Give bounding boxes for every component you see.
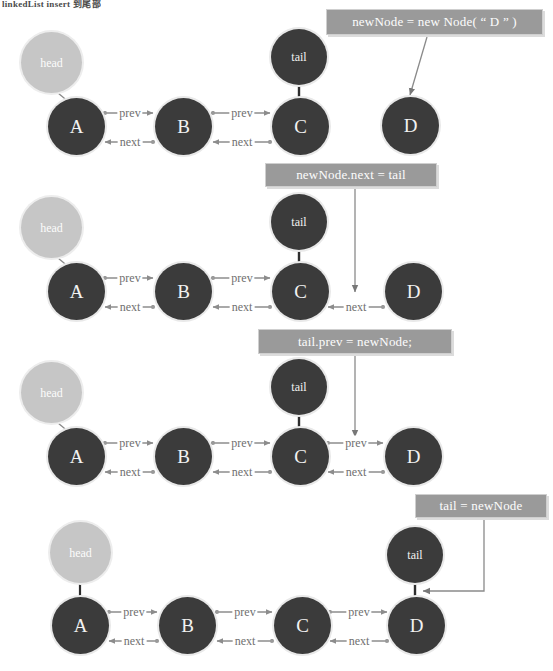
pointer-head-step-2[interactable]: head xyxy=(21,197,82,258)
pointer-tail-label: tail xyxy=(407,549,422,561)
edge-label-prev-ab-step-1: prev xyxy=(117,106,142,121)
node-b-step-2[interactable]: B xyxy=(155,263,212,320)
node-b-step-1[interactable]: B xyxy=(155,98,212,155)
node-c-step-2[interactable]: C xyxy=(272,263,329,320)
node-b-step-3[interactable]: B xyxy=(155,428,212,485)
node-c-step-3[interactable]: C xyxy=(272,428,329,485)
pointer-head-label: head xyxy=(69,547,92,559)
pointer-tail-step-2[interactable]: tail xyxy=(271,194,327,250)
pointer-head-step-1[interactable]: head xyxy=(21,32,82,93)
node-d-label: D xyxy=(404,116,418,135)
code-box-step-2[interactable]: newNode.next = tail xyxy=(265,163,437,187)
node-b-label: B xyxy=(177,117,190,136)
node-b-label: B xyxy=(181,616,194,635)
node-c-step-1[interactable]: C xyxy=(272,98,329,155)
node-a-step-2[interactable]: A xyxy=(48,263,105,320)
pointer-tail-label: tail xyxy=(291,381,306,393)
edge-label-next-dc-step-2: next xyxy=(344,300,369,315)
pointer-tail-label: tail xyxy=(291,216,306,228)
edge-label-next-ba-step-1: next xyxy=(118,135,143,150)
node-c-label: C xyxy=(294,447,307,466)
node-d-step-2[interactable]: D xyxy=(385,263,442,320)
node-a-label: A xyxy=(70,447,84,466)
pointer-head-step-3[interactable]: head xyxy=(21,362,82,423)
node-b-step-4[interactable]: B xyxy=(159,597,216,654)
pointer-tail-step-3[interactable]: tail xyxy=(271,359,327,415)
node-c-step-4[interactable]: C xyxy=(274,597,331,654)
edge-label-prev-bc-step-4: prev xyxy=(232,605,257,620)
diagram-canvas: linkedList insert 到尾部 xyxy=(0,0,553,671)
code-box-step-4[interactable]: tail = newNode xyxy=(415,494,547,518)
edge-label-next-ba-step-4: next xyxy=(122,634,147,649)
node-b-label: B xyxy=(177,282,190,301)
pointer-head-label: head xyxy=(40,57,63,69)
node-a-label: A xyxy=(74,616,88,635)
node-d-label: D xyxy=(407,282,421,301)
edge-label-prev-bc-step-2: prev xyxy=(229,271,254,286)
edge-label-prev-ab-step-2: prev xyxy=(117,271,142,286)
edge-label-next-dc-step-4: next xyxy=(347,634,372,649)
node-a-step-3[interactable]: A xyxy=(48,428,105,485)
edge-label-next-cb-step-1: next xyxy=(230,135,255,150)
edge-label-next-cb-step-3: next xyxy=(230,465,255,480)
node-b-label: B xyxy=(177,447,190,466)
node-d-label: D xyxy=(407,447,421,466)
node-c-label: C xyxy=(294,117,307,136)
edge-label-next-dc-step-3: next xyxy=(344,465,369,480)
edge-label-prev-ab-step-4: prev xyxy=(121,605,146,620)
node-a-step-4[interactable]: A xyxy=(52,597,109,654)
edge-label-prev-bc-step-1: prev xyxy=(229,106,254,121)
code-box-step-1[interactable]: newNode = new Node( “ D ” ) xyxy=(326,9,543,35)
node-d-step-1[interactable]: D xyxy=(382,97,439,154)
edge-label-next-ba-step-2: next xyxy=(118,300,143,315)
pointer-head-step-4[interactable]: head xyxy=(50,522,111,583)
edge-label-next-ba-step-3: next xyxy=(118,465,143,480)
node-c-label: C xyxy=(296,616,309,635)
node-a-label: A xyxy=(70,117,84,136)
pointer-head-label: head xyxy=(40,222,63,234)
edge-label-next-cb-step-2: next xyxy=(230,300,255,315)
pointer-tail-step-1[interactable]: tail xyxy=(271,29,327,85)
pointer-head-label: head xyxy=(40,387,63,399)
pointer-tail-label: tail xyxy=(291,51,306,63)
node-c-label: C xyxy=(294,282,307,301)
node-a-step-1[interactable]: A xyxy=(48,98,105,155)
edge-label-next-cb-step-4: next xyxy=(233,634,258,649)
code-box-step-3[interactable]: tail.prev = newNode; xyxy=(258,329,452,354)
node-d-step-4[interactable]: D xyxy=(388,597,445,654)
node-d-step-3[interactable]: D xyxy=(385,428,442,485)
node-d-label: D xyxy=(410,616,424,635)
pointer-tail-step-4[interactable]: tail xyxy=(387,527,443,583)
node-a-label: A xyxy=(70,282,84,301)
edge-label-prev-bc-step-3: prev xyxy=(229,436,254,451)
edge-label-prev-ab-step-3: prev xyxy=(117,436,142,451)
edge-label-prev-cd-step-3: prev xyxy=(343,436,368,451)
edge-label-prev-cd-step-4: prev xyxy=(346,605,371,620)
